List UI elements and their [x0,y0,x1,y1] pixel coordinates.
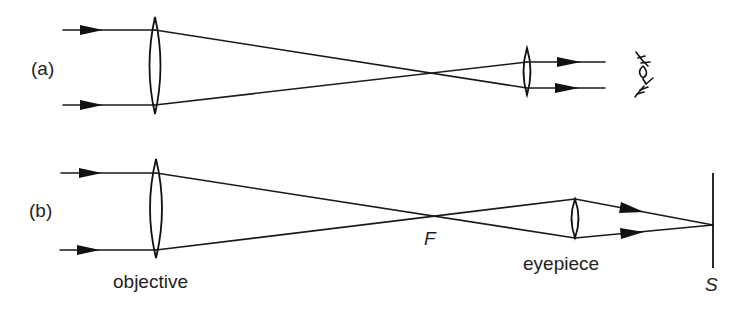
panel-a: (a) [31,17,653,114]
screen-label: S [705,274,718,295]
arrowhead-icon [79,168,102,178]
arrowhead-icon [619,202,644,213]
ray-top-through-focus-b [156,173,575,238]
panel-b-label: (b) [29,200,52,221]
eyepiece-label: eyepiece [523,253,599,274]
ray-bottom-through-focus-a [155,62,527,105]
arrowhead-icon [80,100,103,110]
panel-a-label: (a) [31,58,54,79]
panel-b: (b) F objective eyepiece S [29,159,718,295]
arrowhead-icon [555,83,579,93]
converging-ray-bottom-b [575,225,713,238]
eye-icon [635,52,653,97]
arrowhead-icon [557,57,581,67]
eyepiece-lens-b [572,199,579,238]
objective-label: objective [113,271,188,292]
ray-bottom-through-focus-b [156,199,575,250]
arrowhead-icon [80,25,103,35]
objective-lens-a [150,17,161,114]
arrowhead-icon [77,245,100,255]
ray-top-through-focus-a [155,30,527,88]
telescope-ray-diagram: (a) (b) [0,0,741,309]
focal-point-label: F [424,228,437,249]
arrowhead-icon [620,228,644,239]
